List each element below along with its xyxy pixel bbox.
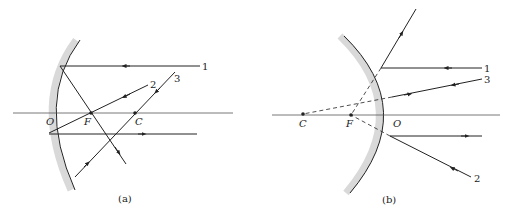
ray-2-incident-b	[390, 136, 471, 177]
label-C-a: C	[135, 116, 143, 127]
ray-label-1-b: 1	[484, 63, 490, 74]
focal-point-b	[349, 113, 353, 117]
center-point-b	[301, 112, 305, 116]
ray-label-2-b: 2	[474, 173, 480, 184]
caption-b: (b)	[382, 194, 396, 205]
ray-1-reflected-b	[381, 9, 416, 68]
ray-2-incident	[49, 85, 148, 133]
panel-b: C F O 1 2 3 (b)	[272, 9, 500, 205]
label-O-b: O	[393, 118, 401, 129]
caption-a: (a)	[118, 193, 132, 204]
label-C-b: C	[299, 118, 307, 129]
label-F-b: F	[345, 118, 354, 129]
center-point-a	[133, 111, 137, 115]
ray-label-3-b: 3	[484, 74, 490, 85]
label-O-a: O	[46, 116, 54, 127]
focal-point-a	[89, 111, 93, 115]
panel-a: O F C 1 2 3 (a)	[13, 40, 233, 204]
ray-label-3-a: 3	[174, 73, 180, 84]
convex-mirror-backing	[340, 36, 380, 193]
mirror-ray-diagram: O F C 1 2 3 (a) C F	[0, 0, 511, 217]
ray-2-virtual	[351, 115, 390, 136]
label-F-a: F	[83, 116, 92, 127]
ray-label-2-a: 2	[150, 79, 156, 90]
ray-label-1-a: 1	[202, 61, 208, 72]
